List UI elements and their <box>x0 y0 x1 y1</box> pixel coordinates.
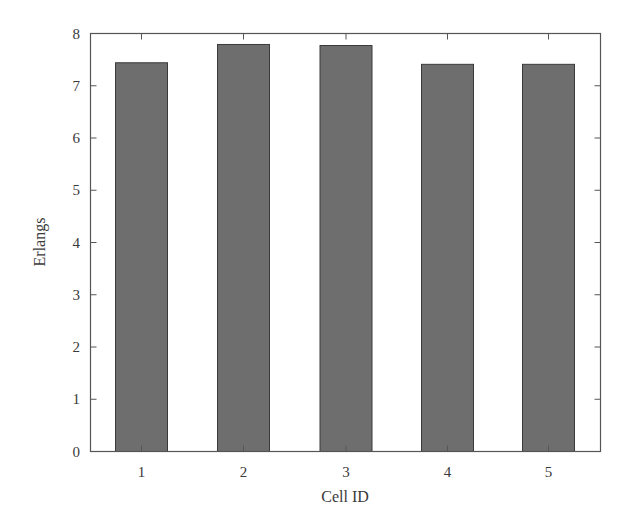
y-tick-labels: 012345678 <box>73 26 81 460</box>
y-tick-label: 1 <box>73 391 81 407</box>
x-tick-label: 5 <box>545 464 553 480</box>
y-tick-label: 0 <box>73 444 81 460</box>
bar-cell-2 <box>218 44 270 451</box>
x-tick-labels: 12345 <box>138 464 553 480</box>
x-tick-label: 3 <box>342 464 350 480</box>
bar-cell-3 <box>320 46 372 452</box>
y-tick-label: 3 <box>73 287 81 303</box>
y-tick-label: 4 <box>73 235 81 251</box>
y-tick-label: 8 <box>73 26 81 42</box>
x-tick-label: 1 <box>138 464 146 480</box>
bar-chart: 012345678 12345 Cell ID Erlangs <box>0 0 629 531</box>
y-tick-label: 7 <box>73 78 81 94</box>
bars-group <box>116 44 575 451</box>
y-axis-label: Erlangs <box>31 218 49 267</box>
y-tick-label: 6 <box>73 130 81 146</box>
x-tick-label: 4 <box>444 464 452 480</box>
bar-cell-5 <box>523 64 575 451</box>
bar-cell-1 <box>116 63 168 452</box>
y-tick-label: 5 <box>73 182 81 198</box>
x-tick-label: 2 <box>240 464 248 480</box>
bar-cell-4 <box>422 64 474 451</box>
x-axis-label: Cell ID <box>321 488 369 505</box>
y-tick-label: 2 <box>73 339 81 355</box>
